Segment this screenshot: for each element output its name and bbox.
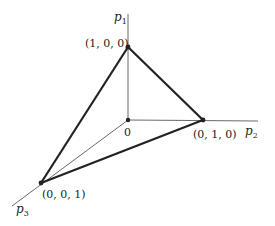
vertex-010-dot — [201, 118, 206, 123]
p1-axis-label: p1 — [114, 10, 127, 26]
p3-axis-label: p3 — [16, 202, 29, 218]
origin-label: 0 — [124, 126, 131, 139]
vertex-010-label: (0, 1, 0) — [193, 128, 237, 141]
simplex-diagram: p1 p2 p3 0 (1, 0, 0) (0, 1, 0) (0, 0, 1) — [0, 0, 275, 226]
vertex-100-label: (1, 0, 0) — [85, 37, 129, 50]
edge-100-001 — [41, 47, 128, 183]
edge-010-001 — [41, 120, 203, 183]
vertex-001-dot — [39, 181, 44, 186]
edge-100-010 — [128, 47, 203, 120]
p2-axis-label: p2 — [245, 124, 258, 140]
p2-axis — [128, 120, 258, 121]
origin-dot — [126, 118, 130, 122]
vertex-001-label: (0, 0, 1) — [42, 188, 86, 201]
